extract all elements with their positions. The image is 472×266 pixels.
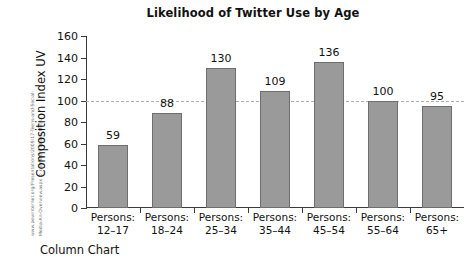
category-label-line1: Persons: — [361, 211, 405, 224]
bar-value-label-2: 130 — [211, 52, 232, 65]
y-tick-20 — [81, 187, 87, 188]
category-label-line2: 18–24 — [145, 224, 189, 237]
chart-caption: Column Chart — [40, 243, 119, 257]
x-tick-0 — [140, 207, 141, 213]
bar-value-label-0: 59 — [106, 129, 120, 142]
y-tick-label: 80 — [64, 116, 78, 129]
category-label-line1: Persons: — [253, 211, 297, 224]
bar-1 — [152, 113, 182, 208]
y-tick-label: 20 — [64, 180, 78, 193]
bar-value-label-6: 95 — [430, 90, 444, 103]
category-label-line1: Persons: — [415, 211, 459, 224]
category-label-line1: Persons: — [91, 211, 135, 224]
y-axis-title: Composition Index UV — [34, 34, 50, 194]
y-tick-label: 40 — [64, 159, 78, 172]
category-label-2: Persons:25–34 — [199, 211, 243, 237]
bar-value-label-4: 136 — [319, 46, 340, 59]
chart-title: Likelihood of Twitter Use by Age — [40, 6, 466, 20]
bar-value-label-5: 100 — [373, 85, 394, 98]
x-tick-2 — [248, 207, 249, 213]
y-tick-label: 100 — [57, 94, 78, 107]
category-label-line1: Persons: — [145, 211, 189, 224]
y-tick-80 — [81, 122, 87, 123]
y-tick-40 — [81, 165, 87, 166]
y-tick-label: 120 — [57, 73, 78, 86]
y-tick-label: 0 — [71, 202, 78, 215]
category-label-line2: 12–17 — [91, 224, 135, 237]
y-tick-160 — [81, 36, 87, 37]
bar-5 — [368, 101, 398, 209]
x-tick-3 — [302, 207, 303, 213]
x-tick-4 — [356, 207, 357, 213]
y-tick-140 — [81, 58, 87, 59]
category-label-line2: 45–54 — [307, 224, 351, 237]
y-tick-label: 140 — [57, 51, 78, 64]
category-label-0: Persons:12–17 — [91, 211, 135, 237]
category-label-5: Persons:55–64 — [361, 211, 405, 237]
y-tick-120 — [81, 79, 87, 80]
category-label-6: Persons:65+ — [415, 211, 459, 237]
x-tick-1 — [194, 207, 195, 213]
y-tick-60 — [81, 144, 87, 145]
category-label-line2: 25–34 — [199, 224, 243, 237]
bar-6 — [422, 106, 452, 208]
category-label-line2: 65+ — [415, 224, 459, 237]
category-label-line2: 35–44 — [253, 224, 297, 237]
bar-4 — [314, 62, 344, 208]
category-label-4: Persons:45–54 — [307, 211, 351, 237]
bar-value-label-3: 109 — [265, 75, 286, 88]
x-tick-5 — [410, 207, 411, 213]
bar-0 — [98, 145, 128, 208]
bar-3 — [260, 91, 290, 208]
y-tick-0 — [81, 208, 87, 209]
y-tick-label: 160 — [57, 30, 78, 43]
category-label-1: Persons:18–24 — [145, 211, 189, 237]
bar-value-label-1: 88 — [160, 97, 174, 110]
y-tick-label: 60 — [64, 137, 78, 150]
category-label-line1: Persons: — [199, 211, 243, 224]
plot-area: 020406080100120140160 598813010913610095 — [86, 36, 464, 208]
bar-2 — [206, 68, 236, 208]
category-label-3: Persons:35–44 — [253, 211, 297, 237]
category-label-line2: 55–64 — [361, 224, 405, 237]
category-label-line1: Persons: — [307, 211, 351, 224]
